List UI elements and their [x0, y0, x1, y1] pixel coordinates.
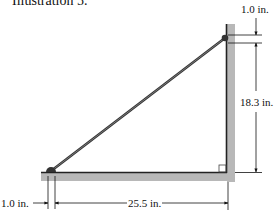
bottom-offset-label: 1.0 in. — [1, 197, 29, 209]
diagram-drawing — [0, 0, 274, 219]
vertical-post — [227, 24, 236, 182]
horizontal-base — [41, 172, 234, 181]
truss-diagram: Illustration 5. — [0, 0, 274, 219]
right-angle-marker — [219, 165, 226, 172]
vertical-height-label: 18.3 in. — [240, 96, 273, 108]
top-offset-label: 1.0 in. — [241, 3, 269, 15]
top-bolt-icon — [222, 35, 229, 42]
horizontal-length-label: 25.5 in. — [128, 197, 161, 209]
diagonal-rod — [51, 38, 225, 171]
